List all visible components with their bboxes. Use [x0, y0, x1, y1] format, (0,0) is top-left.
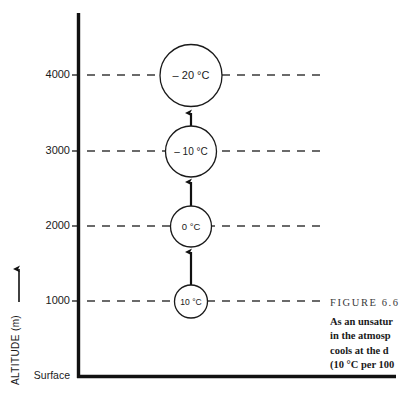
caption-line-3: cools at the d	[330, 344, 403, 358]
air-parcel-3000: – 10 °C	[166, 126, 217, 177]
air-parcel-1000: 10 °C	[175, 285, 208, 318]
figure-caption: FIGURE 6.6 As an unsatur in the atmosp c…	[330, 297, 403, 373]
air-parcel-4000: – 20 °C	[160, 45, 222, 107]
parcel-label-1000: 10 °C	[180, 297, 201, 307]
parcel-label-4000: – 20 °C	[173, 69, 210, 81]
y-tick-label-2000: 2000	[46, 219, 70, 231]
parcel-label-3000: – 10 °C	[174, 146, 207, 157]
caption-line-2: in the atmosp	[330, 329, 403, 343]
surface-label: Surface	[34, 369, 70, 381]
y-tick-label-3000: 3000	[46, 144, 70, 156]
y-tick-labels-group: 4000 3000 2000 1000 Surface	[34, 68, 70, 380]
y-axis-title-group: ALTITUDE (m)	[10, 269, 21, 385]
parcel-label-2000: 0 °C	[182, 221, 201, 232]
figure-caption-body: As an unsatur in the atmosp cools at the…	[330, 315, 403, 373]
y-tick-label-1000: 1000	[46, 294, 70, 306]
figure-number-label: FIGURE 6.6	[330, 297, 403, 308]
air-parcel-2000: 0 °C	[171, 206, 212, 247]
y-tick-label-4000: 4000	[46, 68, 70, 80]
caption-line-4: (10 °C per 100	[330, 358, 403, 372]
caption-line-1: As an unsatur	[330, 315, 403, 329]
y-axis-title: ALTITUDE (m)	[10, 315, 21, 385]
gridlines-group	[72, 75, 320, 301]
